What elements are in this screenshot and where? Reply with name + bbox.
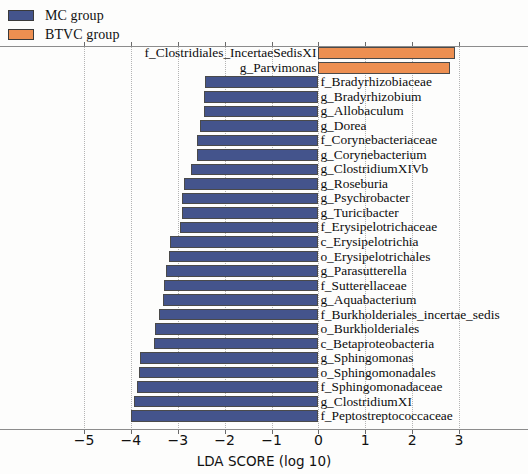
- bar-label: f_Burkholderiales_incertae_sedis: [320, 308, 499, 321]
- legend-label-mc: MC group: [45, 8, 104, 24]
- bar-label: c_Betaproteobacteria: [320, 337, 434, 350]
- bar-row: f_Erysipelotrichaceae: [0, 222, 528, 234]
- legend: MC groupBTVC group: [8, 6, 120, 44]
- lda-score-chart: MC groupBTVC group f_Clostridiales_Incer…: [0, 0, 528, 474]
- bar-mc: f_Corynebacteriaceae: [197, 135, 318, 147]
- x-axis-title: LDA SCORE (log 10): [0, 453, 528, 469]
- bar-mc: f_Bradyrhizobiaceae: [205, 76, 318, 88]
- bar-label: g_Parasutterella: [320, 264, 406, 277]
- bar-btvc: g_Parvimonas: [318, 62, 449, 74]
- bar-btvc: f_Clostridiales_IncertaeSedisXI: [318, 47, 455, 59]
- bar-mc: g_Corynebacterium: [197, 149, 319, 161]
- bar-row: g_Bradyrhizobium: [0, 91, 528, 103]
- x-tick-label-6: 1: [361, 432, 370, 448]
- bar-row: o_Burkholderiales: [0, 323, 528, 335]
- bar-label: o_Erysipelotrichales: [320, 250, 430, 263]
- bar-row: g_Allobaculum: [0, 106, 528, 118]
- bar-mc: o_Burkholderiales: [155, 323, 318, 335]
- tick-top-5: [318, 42, 319, 46]
- bar-label: g_Corynebacterium: [320, 148, 426, 161]
- bar-row: g_Corynebacterium: [0, 149, 528, 161]
- bar-row: g_Psychrobacter: [0, 193, 528, 205]
- bar-row: c_Betaproteobacteria: [0, 338, 528, 350]
- x-tick-label-3: −2: [214, 432, 235, 448]
- bar-mc: g_Sphingomonas: [140, 352, 318, 364]
- bar-row: c_Erysipelotrichia: [0, 236, 528, 248]
- bar-mc: g_ClostridiumXIVb: [191, 164, 319, 176]
- bar-label: f_Clostridiales_IncertaeSedisXI: [145, 47, 317, 60]
- tick-top-0: [84, 42, 85, 46]
- bar-row: o_Sphingomonadales: [0, 367, 528, 379]
- bar-row: f_Corynebacteriaceae: [0, 135, 528, 147]
- bar-label: f_Corynebacteriaceae: [320, 134, 437, 147]
- bar-mc: g_Allobaculum: [204, 106, 319, 118]
- bar-mc: g_ClostridiumXI: [134, 396, 318, 408]
- bar-mc: g_Psychrobacter: [182, 193, 318, 205]
- bar-mc: f_Erysipelotrichaceae: [180, 222, 318, 234]
- x-axis-tick-labels: −5−4−3−2−10123: [0, 432, 528, 450]
- x-tick-label-8: 3: [455, 432, 464, 448]
- bar-label: g_Turicibacter: [320, 206, 398, 219]
- bar-row: f_Peptostreptococcaceae: [0, 410, 528, 422]
- bar-label: g_ClostridiumXI: [320, 395, 412, 408]
- legend-item-btvc: BTVC group: [8, 25, 120, 44]
- bar-row: g_Sphingomonas: [0, 352, 528, 364]
- bar-mc: g_Dorea: [200, 120, 318, 132]
- bar-mc: f_Sutterellaceae: [164, 280, 318, 292]
- x-tick-label-0: −5: [74, 432, 95, 448]
- bar-mc: g_Parasutterella: [166, 265, 318, 277]
- bar-mc: g_Aquabacterium: [163, 294, 319, 306]
- x-tick-label-2: −3: [167, 432, 188, 448]
- x-tick-label-1: −4: [121, 432, 142, 448]
- bar-label: f_Peptostreptococcaceae: [320, 409, 452, 422]
- bar-row: o_Erysipelotrichales: [0, 251, 528, 263]
- bar-label: c_Erysipelotrichia: [320, 235, 418, 248]
- tick-top-6: [365, 42, 366, 46]
- bar-label: g_Parvimonas: [240, 61, 317, 74]
- x-tick-label-5: 0: [314, 432, 323, 448]
- bar-label: g_Roseburia: [320, 177, 388, 190]
- bar-label: g_Sphingomonas: [320, 351, 413, 364]
- bar-mc: f_Peptostreptococcaceae: [131, 410, 319, 422]
- bar-row: f_Clostridiales_IncertaeSedisXI: [0, 47, 528, 59]
- bar-label: o_Burkholderiales: [320, 322, 419, 335]
- bar-mc: f_Burkholderiales_incertae_sedis: [159, 309, 318, 321]
- bar-row: f_Burkholderiales_incertae_sedis: [0, 309, 528, 321]
- bar-label: f_Sutterellaceae: [320, 279, 406, 292]
- legend-swatch-mc: [8, 10, 34, 21]
- bar-mc: f_Sphingomonadaceae: [137, 381, 318, 393]
- axis-line-bottom: [0, 429, 528, 430]
- bar-mc: c_Betaproteobacteria: [154, 338, 318, 350]
- x-tick-label-4: −1: [261, 432, 282, 448]
- bar-label: g_Bradyrhizobium: [320, 90, 421, 103]
- bar-row: g_Aquabacterium: [0, 294, 528, 306]
- bar-label: g_Allobaculum: [320, 105, 403, 118]
- bar-label: f_Sphingomonadaceae: [320, 380, 442, 393]
- bar-row: g_ClostridiumXIVb: [0, 164, 528, 176]
- tick-top-1: [131, 42, 132, 46]
- legend-item-mc: MC group: [8, 6, 120, 25]
- bar-row: g_Parvimonas: [0, 62, 528, 74]
- bar-label: f_Erysipelotrichaceae: [320, 221, 437, 234]
- plot-area: f_Clostridiales_IncertaeSedisXIg_Parvimo…: [0, 46, 528, 430]
- bar-mc: o_Erysipelotrichales: [169, 251, 318, 263]
- bar-mc: g_Bradyrhizobium: [204, 91, 318, 103]
- bar-mc: o_Sphingomonadales: [139, 367, 318, 379]
- bar-label: g_Dorea: [320, 119, 366, 132]
- bar-row: f_Bradyrhizobiaceae: [0, 76, 528, 88]
- bar-row: f_Sphingomonadaceae: [0, 381, 528, 393]
- bar-row: g_Roseburia: [0, 178, 528, 190]
- bar-label: g_Psychrobacter: [320, 192, 409, 205]
- legend-swatch-btvc: [8, 29, 34, 40]
- bar-row: g_ClostridiumXI: [0, 396, 528, 408]
- bar-row: f_Sutterellaceae: [0, 280, 528, 292]
- bar-row: g_Parasutterella: [0, 265, 528, 277]
- bar-label: g_Aquabacterium: [320, 293, 416, 306]
- bar-mc: c_Erysipelotrichia: [170, 236, 318, 248]
- bar-label: o_Sphingomonadales: [320, 366, 435, 379]
- bar-mc: g_Turicibacter: [182, 207, 318, 219]
- tick-top-8: [459, 42, 460, 46]
- bar-mc: g_Roseburia: [184, 178, 318, 190]
- bar-label: f_Bradyrhizobiaceae: [320, 76, 432, 89]
- x-tick-label-7: 2: [408, 432, 417, 448]
